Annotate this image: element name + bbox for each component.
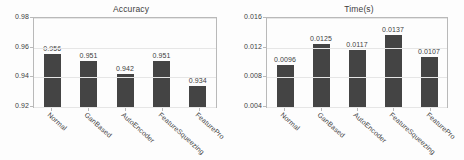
x-tick-label: GanBased [316,111,346,139]
y-tick-mark [30,47,33,48]
y-tick-label: 0.94 [0,72,29,79]
chart-panel-accuracy: Accuracy 0.9560.9510.9420.9510.934 0.920… [0,0,232,160]
bar-slot: 0.951 [143,18,179,107]
bar-value-label: 0.0107 [418,48,440,55]
gridline [267,18,447,19]
y-tick-mark [263,17,266,18]
bar-slot: 0.0125 [303,18,339,107]
chart-title-time: Time(s) [232,4,464,14]
bar[interactable] [385,35,402,107]
bar-slot: 0.0137 [375,18,411,107]
y-tick-mark [30,76,33,77]
y-tick-mark [30,17,33,18]
y-tick-mark [263,106,266,107]
x-tick-label: Normal [280,111,302,132]
y-tick-mark [263,47,266,48]
x-tick-label: FeaturePro [425,111,456,140]
y-tick-label: 0.96 [0,43,29,50]
bar[interactable] [80,61,97,107]
chart-title-accuracy: Accuracy [0,4,232,14]
y-tick-mark [263,76,266,77]
y-tick-label: 0.016 [232,13,262,20]
bar-slot: 0.942 [107,18,143,107]
plot-area-time: 0.00960.01250.01170.01370.0107 [266,17,448,108]
bar[interactable] [44,54,61,107]
bar-value-label: 0.0137 [382,26,404,33]
x-axis-time: NormalGanBasedAutoEncoderFeatureSqueezin… [266,109,448,159]
figure-container: Accuracy 0.9560.9510.9420.9510.934 0.920… [0,0,464,160]
gridline [34,48,216,49]
bar-value-label: 0.0096 [274,56,296,63]
gridline [34,18,216,19]
x-tick-label: GanBased [84,111,114,139]
bar-slot: 0.934 [180,18,216,107]
bar[interactable] [349,50,366,107]
x-tick-label: FeaturePro [194,111,225,140]
x-tick-label: AutoEncoder [352,111,388,144]
chart-panel-time: Time(s) 0.00960.01250.01170.01370.0107 0… [232,0,464,160]
bar-slot: 0.0096 [267,18,303,107]
bar[interactable] [421,57,438,107]
x-tick-label: Normal [47,111,69,132]
bar-value-label: 0.951 [80,52,98,59]
bar[interactable] [313,44,330,107]
x-axis-accuracy: NormalGanBasedAutoEncoderFeatureSqueezin… [33,109,217,159]
bar-group-accuracy: 0.9560.9510.9420.9510.934 [34,18,216,107]
bar[interactable] [277,65,294,107]
bar-slot: 0.956 [34,18,70,107]
x-tick-label: AutoEncoder [120,111,156,144]
bar-slot: 0.0117 [339,18,375,107]
y-tick-label: 0.004 [232,102,262,109]
bar-slot: 0.951 [70,18,106,107]
gridline [267,48,447,49]
gridline [34,77,216,78]
y-tick-label: 0.92 [0,102,29,109]
bar[interactable] [153,61,170,107]
gridline [267,77,447,78]
bar-group-time: 0.00960.01250.01170.01370.0107 [267,18,447,107]
y-tick-label: 0.008 [232,72,262,79]
plot-area-accuracy: 0.9560.9510.9420.9510.934 [33,17,217,108]
y-tick-label: 0.012 [232,43,262,50]
y-tick-label: 0.98 [0,13,29,20]
bar[interactable] [117,74,134,107]
y-tick-mark [30,106,33,107]
bar-slot: 0.0107 [411,18,447,107]
bar[interactable] [189,86,206,107]
bar-value-label: 0.942 [116,65,134,72]
bar-value-label: 0.0125 [310,35,332,42]
bar-value-label: 0.951 [152,52,170,59]
